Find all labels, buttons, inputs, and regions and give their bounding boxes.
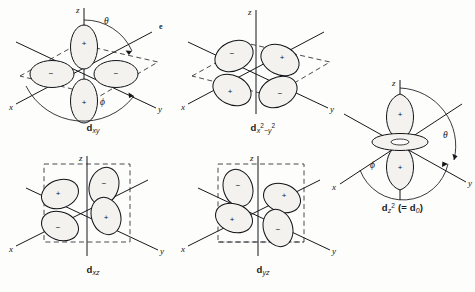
orbital-dz2-drawing: + + θ ϕ z x y: [330, 78, 475, 206]
lobe-sign-upper-right: +: [282, 191, 287, 200]
orbital-dxy-label: dxy: [8, 122, 178, 134]
orbital-dxy: + + − − θ ϕ z x y dxy: [8, 4, 178, 144]
lobe-sign-right: −: [114, 69, 119, 78]
y-axis: [188, 42, 328, 108]
orbital-dyz-label: dyz: [178, 264, 348, 276]
y-axis-label: y: [331, 246, 336, 256]
torus-inner-hole: [391, 139, 409, 145]
x-axis-label: x: [8, 102, 13, 112]
lobe-sign-lower-right: −: [278, 89, 283, 98]
x-axis-label: x: [180, 244, 185, 254]
lobe-sign-upper-left: −: [236, 181, 241, 190]
orbital-dyz: − + + − z x y dyz: [178, 150, 348, 288]
dz2-label-close: ): [420, 202, 423, 213]
lobe-sign-lower-right: +: [104, 213, 109, 222]
y-axis-label: y: [157, 104, 162, 114]
orbital-dx2y2-label: dx2−y2: [178, 122, 348, 134]
dz2-label-paren: (= d: [398, 202, 416, 213]
lobe-sign-lower: +: [398, 163, 403, 172]
dx2y2-label-sup-2: 2: [272, 122, 276, 129]
z-axis-label: z: [75, 5, 80, 15]
orbital-dxz-label: dxz: [8, 264, 178, 276]
orbital-dxz: + − − + z x y dxz: [8, 150, 178, 288]
orbital-dxy-drawing: + + − − θ ϕ z x y: [8, 4, 178, 126]
phi-label: ϕ: [370, 160, 375, 170]
lobe-sign-lower-left: +: [228, 87, 233, 96]
orbital-figure-page: + + − − θ ϕ z x y dxy: [0, 0, 475, 292]
orbital-dz2: + + θ ϕ z x y dz2 (= d0): [330, 78, 475, 228]
orbital-dz2-label: dz2 (= d0): [330, 202, 475, 214]
theta-label: θ: [443, 130, 448, 140]
lobe-sign-bottom: +: [82, 98, 87, 107]
lobe-sign-upper-left: +: [56, 189, 61, 198]
x-axis-label: x: [8, 244, 13, 254]
y-axis-label: y: [159, 246, 164, 256]
lobe-sign-upper-right: +: [280, 53, 285, 62]
y-axis-label: y: [467, 178, 472, 188]
orbital-dx2y2-drawing: − + + − z x y: [178, 4, 348, 126]
lobe-sign-top: +: [82, 39, 87, 48]
orbital-dxz-drawing: + − − + z x y: [8, 150, 178, 266]
lobe-sign-upper-left: −: [230, 49, 235, 58]
z-axis-label: z: [391, 78, 396, 88]
x-axis-label: x: [180, 102, 185, 112]
orbital-dx2y2: − + + − z x y dx2−y2: [178, 4, 348, 144]
z-axis-label: z: [78, 153, 83, 163]
lobe-group: [37, 163, 125, 245]
theta-label: θ: [104, 16, 109, 26]
dxy-label-sub: xy: [93, 127, 100, 134]
phi-label: ϕ: [100, 97, 105, 107]
lobe-sign-upper: +: [398, 110, 403, 119]
z-axis-label: z: [247, 7, 252, 17]
lobe-sign-lower-left: +: [230, 215, 235, 224]
lobe-sign-lower-right: −: [276, 225, 281, 234]
theta-arrowhead: [126, 50, 133, 55]
lobe-sign-upper-right: −: [102, 179, 107, 188]
lobe-sign-left: −: [49, 69, 54, 78]
orbital-dyz-drawing: − + + − z x y: [178, 150, 348, 266]
dxz-label-sub: xz: [93, 269, 100, 276]
lobe-sign-lower-left: −: [56, 223, 61, 232]
z-axis-label: z: [249, 153, 254, 163]
dyz-label-sub: yz: [263, 269, 270, 276]
stray-mark-e: e: [159, 22, 163, 31]
